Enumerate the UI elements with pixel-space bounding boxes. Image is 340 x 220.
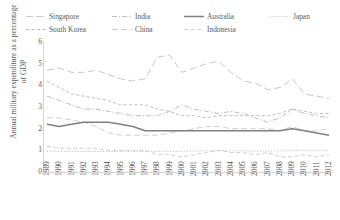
x-tick-label: 2001 xyxy=(190,161,197,176)
y-tick-mark xyxy=(40,42,44,43)
x-tick-label: 1996 xyxy=(129,161,136,176)
legend-item-singapore[interactable]: Singapore xyxy=(26,10,112,23)
x-tick-label: 2004 xyxy=(227,161,234,176)
x-tick-label: 2010 xyxy=(301,161,308,176)
x-tick-label: 1990 xyxy=(56,161,63,176)
x-tick-label: 2006 xyxy=(252,161,259,176)
legend-label: Japan xyxy=(293,13,310,20)
x-tick-label: 2003 xyxy=(215,161,222,176)
x-tick-label: 2011 xyxy=(313,161,320,176)
plot-area xyxy=(44,42,332,172)
series-line-singapore xyxy=(47,55,329,98)
x-tick-label: 1997 xyxy=(141,161,148,176)
legend-label: Indonesia xyxy=(207,26,236,33)
x-tick-label: 1993 xyxy=(92,161,99,176)
y-tick-mark xyxy=(40,107,44,108)
legend-swatch-icon xyxy=(26,13,46,20)
legend-item-indonesia[interactable]: Indonesia xyxy=(184,23,270,36)
x-tick-label: 2005 xyxy=(239,161,246,176)
legend-item-china[interactable]: China xyxy=(112,23,184,36)
x-tick-label: 1994 xyxy=(105,161,112,176)
series-line-south-korea xyxy=(47,81,329,118)
legend-label: Australia xyxy=(207,13,234,20)
series-line-japan xyxy=(47,150,329,151)
series-line-india xyxy=(47,96,329,122)
chart-figure: SingaporeSouth KoreaIndiaChinaAustraliaI… xyxy=(0,0,340,220)
x-tick-label: 1995 xyxy=(117,161,124,176)
x-tick-label: 1992 xyxy=(80,161,87,176)
legend-item-india[interactable]: India xyxy=(112,10,184,23)
x-tick-label: 1999 xyxy=(166,161,173,176)
x-tick-label: 2000 xyxy=(178,161,185,176)
series-line-china xyxy=(47,118,329,135)
legend-swatch-icon xyxy=(112,13,132,20)
x-axis-ticks: 1989199019911992199319941995199619971998… xyxy=(44,176,332,218)
legend-label: South Korea xyxy=(49,26,86,33)
y-axis-title: Annual military expenditure as a percent… xyxy=(9,2,28,142)
y-tick-mark xyxy=(40,150,44,151)
x-tick-label: 2009 xyxy=(289,161,296,176)
legend-swatch-icon xyxy=(184,13,204,20)
x-tick-label: 2002 xyxy=(203,161,210,176)
y-tick-mark xyxy=(40,85,44,86)
legend-item-japan[interactable]: Japan xyxy=(270,10,336,23)
legend-swatch-icon xyxy=(112,26,132,33)
series-canvas xyxy=(44,42,332,172)
y-tick-mark xyxy=(40,172,44,173)
y-tick-mark xyxy=(40,63,44,64)
y-tick-mark xyxy=(40,128,44,129)
x-tick-label: 1989 xyxy=(43,161,50,176)
legend-swatch-icon xyxy=(184,26,204,33)
x-tick-label: 1991 xyxy=(68,161,75,176)
x-tick-label: 2012 xyxy=(325,161,332,176)
legend-item-south-korea[interactable]: South Korea xyxy=(26,23,112,36)
legend-item-australia[interactable]: Australia xyxy=(184,10,270,23)
legend-label: Singapore xyxy=(49,13,79,20)
x-tick-label: 2008 xyxy=(276,161,283,176)
x-tick-label: 2007 xyxy=(264,161,271,176)
legend-swatch-icon xyxy=(26,26,46,33)
legend-label: China xyxy=(135,26,153,33)
chart-legend: SingaporeSouth KoreaIndiaChinaAustraliaI… xyxy=(26,10,336,36)
legend-label: India xyxy=(135,13,150,20)
legend-swatch-icon xyxy=(270,13,290,20)
x-tick-label: 1998 xyxy=(154,161,161,176)
